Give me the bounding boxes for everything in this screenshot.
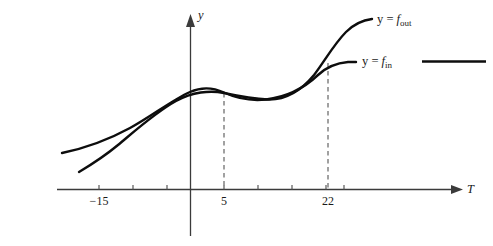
x-tick-label-minus15: −15: [83, 194, 115, 209]
x-tick-label-5: 5: [208, 194, 240, 209]
plot-canvas: [0, 0, 493, 246]
series-label-f-in-sub: in: [385, 60, 392, 70]
series-label-f-out-sub: out: [400, 18, 412, 28]
series-label-f-out-eq: y =: [377, 12, 397, 26]
function-graph-figure: T y −15 5 22 y = fout y = fin: [0, 0, 493, 246]
series-label-f-in-eq: y =: [362, 54, 382, 68]
x-axis-group: [57, 185, 463, 194]
series-label-f-out: y = fout: [377, 12, 412, 27]
y-axis-arrowhead: [186, 14, 195, 27]
x-tick-label-22: 22: [312, 194, 344, 209]
y-axis-label: y: [198, 8, 204, 23]
x-axis-arrowhead: [451, 185, 463, 194]
x-axis-label: T: [467, 182, 474, 197]
series-label-f-in: y = fin: [362, 54, 392, 69]
y-axis-group: [186, 14, 195, 236]
